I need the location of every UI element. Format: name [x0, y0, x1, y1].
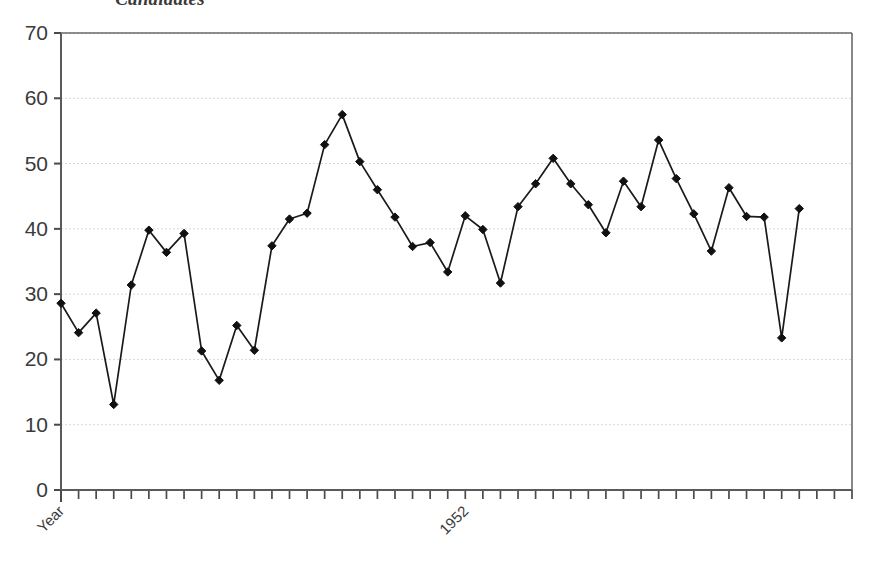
y-axis-ticks — [54, 33, 61, 490]
x-tick-label: 1952 — [436, 502, 472, 538]
svg-text:1952: 1952 — [436, 502, 472, 538]
y-tick-label: 20 — [25, 347, 48, 370]
y-axis-tick-labels: 010203040506070 — [25, 21, 48, 501]
plot-background — [61, 33, 852, 490]
y-tick-label: 10 — [25, 413, 48, 436]
y-tick-label: 60 — [25, 86, 48, 109]
y-tick-label: 70 — [25, 21, 48, 44]
x-axis-ticks — [61, 490, 852, 502]
y-tick-label: 30 — [25, 282, 48, 305]
line-chart: 010203040506070 Year1952 — [0, 0, 869, 583]
x-axis-tick-labels: Year1952 — [34, 502, 472, 538]
chart-page: Candidates 010203040506070 Year1952 — [0, 0, 869, 583]
svg-text:Year: Year — [34, 502, 67, 535]
y-tick-label: 50 — [25, 152, 48, 175]
x-tick-label: Year — [34, 502, 67, 535]
y-tick-label: 0 — [36, 478, 48, 501]
y-tick-label: 40 — [25, 217, 48, 240]
